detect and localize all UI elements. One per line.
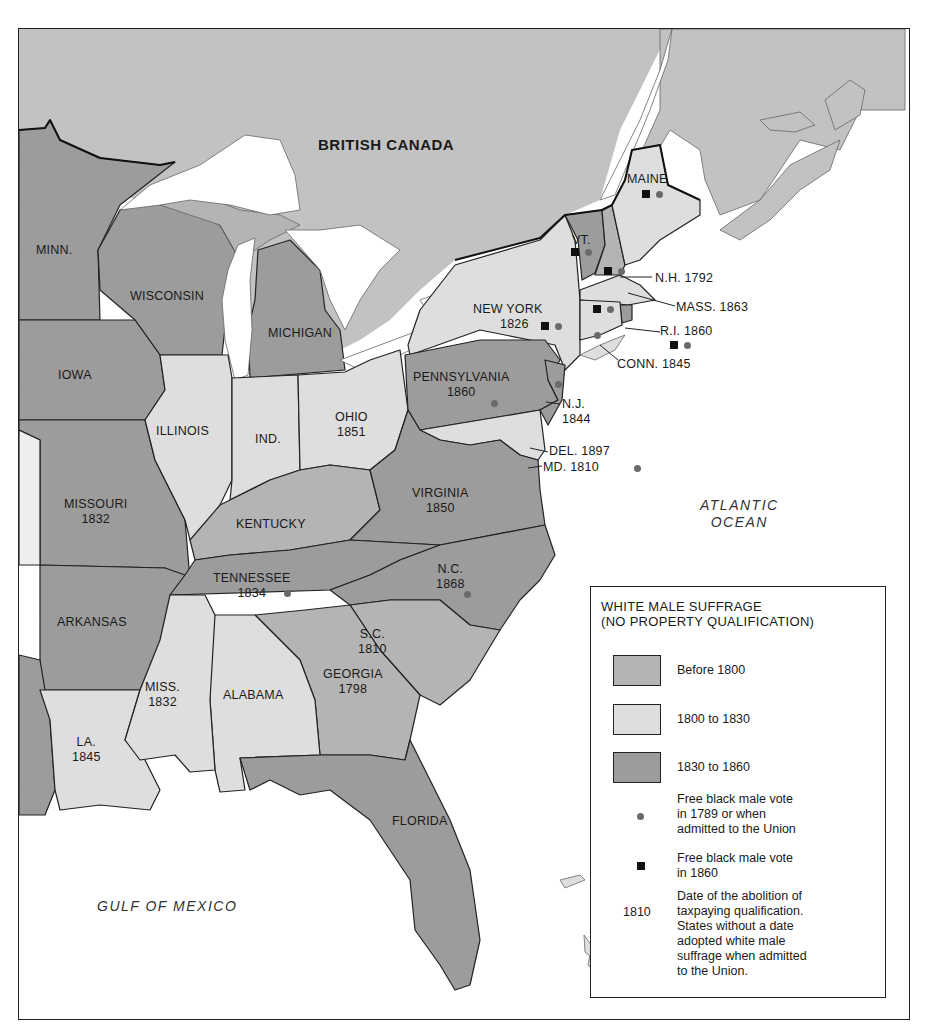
- label-md: MD. 1810: [543, 460, 599, 475]
- label-tennessee-name: TENNESSEE: [213, 571, 291, 586]
- marker-dot-tennessee: [284, 590, 291, 597]
- label-sc: S.C. 1810: [358, 627, 387, 657]
- label-missouri: MISSOURI 1832: [64, 497, 127, 527]
- label-miss-year: 1832: [145, 695, 180, 710]
- legend-year-text-line: adopted white male: [677, 934, 807, 949]
- label-georgia-name: GEORGIA: [323, 667, 383, 682]
- label-gulf-of-mexico: GULF OF MEXICO: [97, 898, 237, 915]
- label-pennsylvania: PENNSYLVANIA 1860: [413, 370, 509, 400]
- label-new-york-name: NEW YORK: [473, 302, 542, 317]
- state-florida: [240, 740, 480, 990]
- label-miss: MISS. 1832: [145, 680, 180, 710]
- label-ind: IND.: [255, 432, 281, 447]
- label-nj-name: N.J.: [562, 397, 591, 412]
- legend-box: WHITE MALE SUFFRAGE (NO PROPERTY QUALIFI…: [590, 586, 886, 998]
- label-wisconsin: WISCONSIN: [130, 289, 204, 304]
- legend-swatch-before-1800: [613, 655, 661, 686]
- state-conn: [580, 300, 622, 340]
- legend-square-text-line: in 1860: [677, 866, 793, 881]
- marker-dot-nj: [555, 381, 562, 388]
- label-del: DEL. 1897: [549, 444, 610, 459]
- legend-label-before-1800: Before 1800: [677, 663, 745, 678]
- legend-label-1800-1830: 1800 to 1830: [677, 712, 750, 727]
- marker-dot-pennsylvania: [491, 400, 498, 407]
- marker-square-maine: [642, 190, 650, 198]
- label-virginia-year: 1850: [412, 501, 468, 516]
- marker-dot-vt: [585, 249, 592, 256]
- marker-dot-nh: [618, 268, 625, 275]
- label-iowa: IOWA: [58, 368, 92, 383]
- legend-swatch-1800-1830: [613, 704, 661, 735]
- label-florida: FLORIDA: [392, 814, 448, 829]
- label-la-name: LA.: [72, 735, 101, 750]
- label-georgia-year: 1798: [323, 682, 383, 697]
- legend-square-text-line: Free black male vote: [677, 851, 793, 866]
- label-vt: VT.: [572, 233, 591, 248]
- label-virginia: VIRGINIA 1850: [412, 486, 468, 516]
- legend-year-text-line: Date of the abolition of: [677, 889, 807, 904]
- label-british-canada: BRITISH CANADA: [318, 137, 454, 152]
- label-alabama: ALABAMA: [223, 688, 283, 703]
- legend-year-text-line: States without a date: [677, 919, 807, 934]
- label-kentucky: KENTUCKY: [236, 517, 306, 532]
- label-tennessee: TENNESSEE 1834: [213, 571, 291, 601]
- legend-label-1830-1860: 1830 to 1860: [677, 760, 750, 775]
- marker-dot-new-york: [555, 323, 562, 330]
- label-michigan: MICHIGAN: [268, 326, 332, 341]
- marker-dot-md: [634, 465, 641, 472]
- label-miss-name: MISS.: [145, 680, 180, 695]
- label-new-york: NEW YORK 1826: [473, 302, 542, 332]
- label-maine: MAINE: [627, 172, 668, 187]
- label-pennsylvania-year: 1860: [413, 385, 509, 400]
- label-sc-year: 1810: [358, 642, 387, 657]
- legend-year-text-line: taxpaying qualification.: [677, 904, 807, 919]
- legend-swatch-1830-1860: [613, 752, 661, 783]
- label-nj: N.J. 1844: [562, 397, 591, 427]
- label-ri: R.I. 1860: [660, 324, 713, 339]
- marker-square-ri: [670, 341, 678, 349]
- label-ohio: OHIO 1851: [335, 410, 368, 440]
- label-virginia-name: VIRGINIA: [412, 486, 468, 501]
- marker-square-nh: [604, 267, 612, 275]
- marker-dot-nc: [464, 591, 471, 598]
- legend-dot-icon: [637, 813, 644, 820]
- label-georgia: GEORGIA 1798: [323, 667, 383, 697]
- label-nj-year: 1844: [562, 412, 591, 427]
- marker-square-mass: [593, 305, 601, 313]
- label-mass: MASS. 1863: [676, 300, 748, 315]
- legend-dot-text-line: admitted to the Union: [677, 822, 796, 837]
- marker-square-vt: [571, 248, 579, 256]
- label-missouri-name: MISSOURI: [64, 497, 127, 512]
- label-sc-name: S.C.: [358, 627, 387, 642]
- legend-title: WHITE MALE SUFFRAGE (NO PROPERTY QUALIFI…: [601, 599, 814, 629]
- label-atlantic-ocean: ATLANTIC OCEAN: [700, 497, 779, 531]
- label-la: LA. 1845: [72, 735, 101, 765]
- legend-year-text: Date of the abolition of taxpaying quali…: [677, 889, 807, 979]
- legend-square-text: Free black male vote in 1860: [677, 851, 793, 881]
- state-iowa: [19, 320, 165, 420]
- legend-year-text-line: to the Union.: [677, 964, 807, 979]
- label-new-york-year: 1826: [473, 317, 542, 332]
- label-pennsylvania-name: PENNSYLVANIA: [413, 370, 509, 385]
- legend-title-line1: WHITE MALE SUFFRAGE: [601, 599, 814, 614]
- marker-dot-conn: [594, 332, 601, 339]
- legend-dot-text-line: in 1789 or when: [677, 807, 796, 822]
- label-illinois: ILLINOIS: [156, 424, 209, 439]
- marker-dot-mass: [607, 306, 614, 313]
- legend-year-sample: 1810: [623, 905, 651, 920]
- label-nc: N.C. 1868: [436, 562, 465, 592]
- label-ohio-name: OHIO: [335, 410, 368, 425]
- legend-year-text-line: suffrage when admitted: [677, 949, 807, 964]
- label-ohio-year: 1851: [335, 425, 368, 440]
- marker-square-new-york: [541, 322, 549, 330]
- label-missouri-year: 1832: [64, 512, 127, 527]
- label-nc-year: 1868: [436, 577, 465, 592]
- label-conn: CONN. 1845: [617, 357, 691, 372]
- bahamas-1: [560, 875, 585, 888]
- label-arkansas: ARKANSAS: [57, 615, 127, 630]
- label-atlantic-line2: OCEAN: [700, 514, 779, 531]
- legend-dot-text: Free black male vote in 1789 or when adm…: [677, 792, 796, 837]
- label-la-year: 1845: [72, 750, 101, 765]
- state-kansas-strip: [19, 430, 40, 565]
- label-minn: MINN.: [36, 243, 72, 258]
